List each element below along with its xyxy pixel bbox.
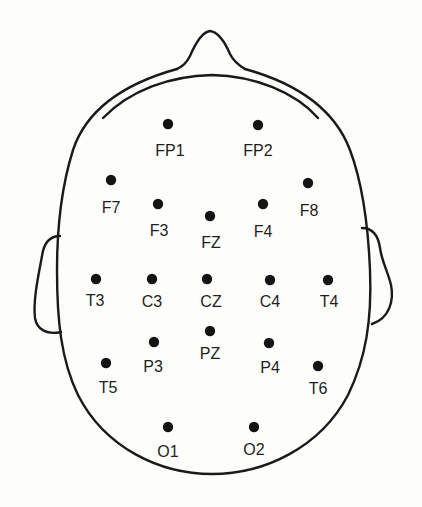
electrode-o2: O2 bbox=[243, 422, 264, 458]
electrode-o1: O1 bbox=[157, 422, 178, 460]
electrode-dot-icon bbox=[163, 119, 173, 129]
electrode-dot-icon bbox=[163, 422, 173, 432]
electrode-label: CZ bbox=[200, 293, 222, 310]
electrode-label: F4 bbox=[254, 223, 273, 240]
electrode-pz: PZ bbox=[200, 326, 221, 362]
electrode-dot-icon bbox=[205, 211, 215, 221]
electrode-dot-icon bbox=[149, 337, 159, 347]
electrode-label: F7 bbox=[102, 199, 121, 216]
electrode-label: FZ bbox=[201, 234, 221, 251]
electrode-p4: P4 bbox=[260, 338, 280, 376]
electrode-label: T3 bbox=[86, 292, 105, 309]
electrode-dot-icon bbox=[258, 199, 268, 209]
electrode-label: T4 bbox=[320, 293, 339, 310]
electrode-c3: C3 bbox=[142, 274, 163, 310]
electrode-t3: T3 bbox=[86, 274, 105, 309]
electrode-t4: T4 bbox=[320, 275, 339, 310]
electrode-dot-icon bbox=[249, 422, 259, 432]
head-outline bbox=[57, 69, 370, 474]
forehead-inner-arc bbox=[103, 75, 318, 118]
electrode-f8: F8 bbox=[300, 178, 319, 219]
electrode-label: P3 bbox=[143, 358, 163, 375]
electrode-dot-icon bbox=[253, 120, 263, 130]
electrode-dot-icon bbox=[205, 326, 215, 336]
electrode-dot-icon bbox=[323, 275, 333, 285]
electrode-f3: F3 bbox=[150, 199, 169, 239]
electrode-f4: F4 bbox=[254, 199, 273, 240]
electrode-fz: FZ bbox=[201, 211, 221, 251]
electrode-dot-icon bbox=[91, 274, 101, 284]
electrode-label: C4 bbox=[260, 293, 281, 310]
electrode-t6: T6 bbox=[309, 361, 328, 397]
nose-outline bbox=[177, 31, 245, 69]
electrode-label: FP2 bbox=[243, 142, 272, 159]
electrode-dot-icon bbox=[303, 178, 313, 188]
eeg-electrode-diagram: FP1FP2F7F3FZF4F8T3C3CZC4T4PZP3P4T5T6O1O2 bbox=[0, 0, 422, 507]
electrode-dot-icon bbox=[202, 274, 212, 284]
electrode-dot-icon bbox=[313, 361, 323, 371]
electrode-label: FP1 bbox=[155, 142, 184, 159]
electrode-label: PZ bbox=[200, 345, 221, 362]
electrode-dot-icon bbox=[153, 199, 163, 209]
electrode-dot-icon bbox=[264, 338, 274, 348]
electrode-dot-icon bbox=[101, 358, 111, 368]
electrode-group: FP1FP2F7F3FZF4F8T3C3CZC4T4PZP3P4T5T6O1O2 bbox=[86, 119, 339, 460]
electrode-label: P4 bbox=[260, 359, 280, 376]
electrode-t5: T5 bbox=[99, 358, 118, 396]
electrode-f7: F7 bbox=[102, 175, 121, 216]
electrode-fp2: FP2 bbox=[243, 120, 272, 159]
electrode-label: F3 bbox=[150, 222, 169, 239]
electrode-fp1: FP1 bbox=[155, 119, 184, 159]
electrode-c4: C4 bbox=[260, 275, 281, 310]
electrode-dot-icon bbox=[147, 274, 157, 284]
electrode-label: F8 bbox=[300, 202, 319, 219]
electrode-label: T6 bbox=[309, 380, 328, 397]
electrode-cz: CZ bbox=[200, 274, 222, 310]
electrode-label: O2 bbox=[243, 441, 264, 458]
electrode-label: C3 bbox=[142, 293, 163, 310]
electrode-label: O1 bbox=[157, 443, 178, 460]
electrode-dot-icon bbox=[265, 275, 275, 285]
electrode-label: T5 bbox=[99, 379, 118, 396]
electrode-dot-icon bbox=[106, 175, 116, 185]
right-ear bbox=[362, 228, 392, 324]
electrode-p3: P3 bbox=[143, 337, 163, 375]
